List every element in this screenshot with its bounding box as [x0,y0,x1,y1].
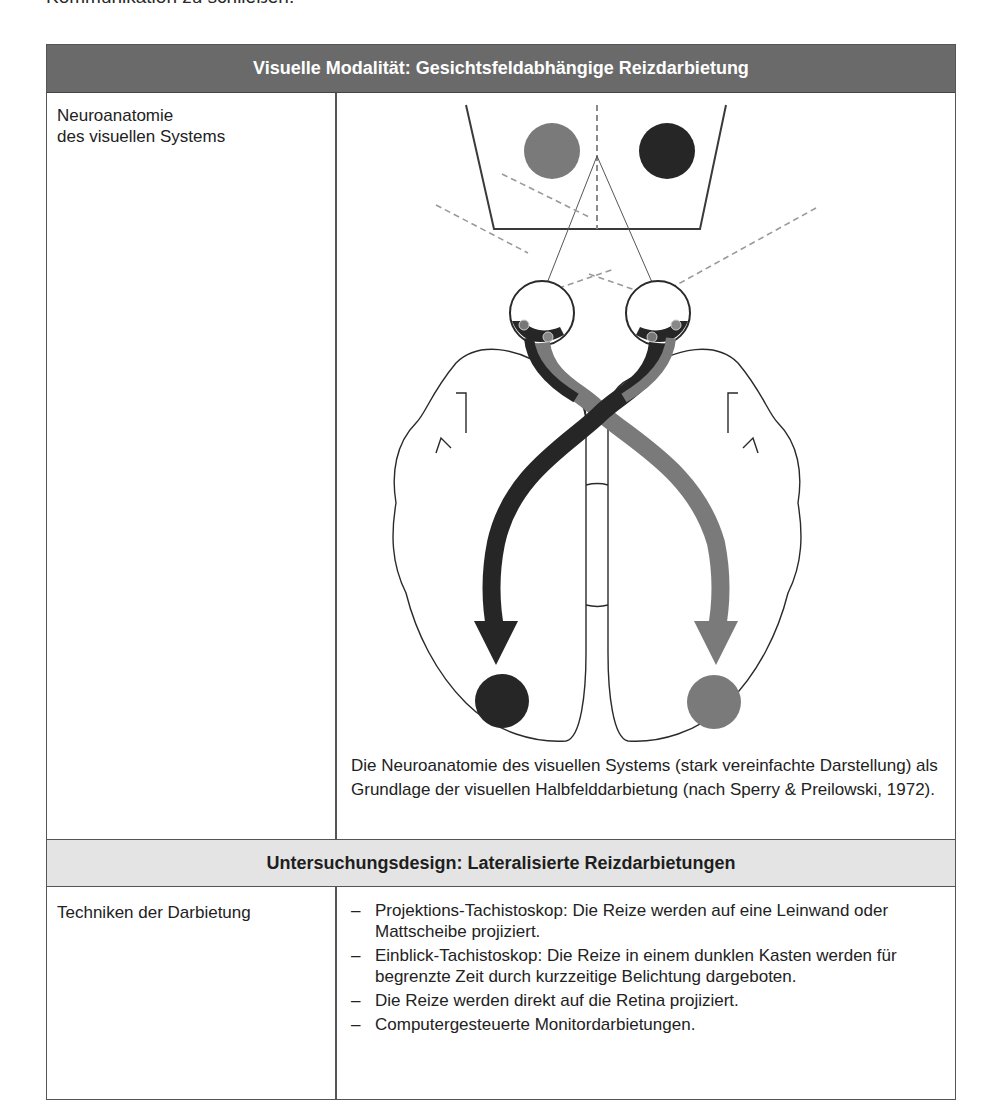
row-label-line2: des visuellen Systems [57,126,225,147]
row-label-techniques: Techniken der Darbietung [57,902,251,923]
visual-system-diagram [336,93,956,753]
dash-bullet: – [351,900,360,921]
eye-left-icon [510,281,574,345]
section-header-visual-modality: Visuelle Modalität: Gesichtsfeldabhängig… [47,45,955,93]
column-divider [335,887,337,1099]
techniques-list: –Projektions-Tachistoskop: Die Reize wer… [351,900,946,1038]
target-left-hemisphere [475,674,529,728]
row-label-neuroanatomy: Neuroanatomie des visuellen Systems [57,105,225,147]
dash-bullet: – [351,990,360,1011]
list-item: –Computergesteuerte Monitordarbietungen. [351,1014,946,1035]
list-item: –Einblick-Tachistoskop: Die Reize in ein… [351,945,946,987]
list-item: –Die Reize werden direkt auf die Retina … [351,990,946,1011]
screen-icon [466,105,726,229]
dash-bullet: – [351,1014,360,1035]
figure-caption: Die Neuroanatomie des visuellen Systems … [351,754,941,802]
eye-right-icon [626,281,690,345]
dash-bullet: – [351,945,360,966]
target-right-hemisphere [687,675,741,729]
section-header-study-design: Untersuchungsdesign: Lateralisierte Reiz… [47,839,955,887]
info-table: Visuelle Modalität: Gesichtsfeldabhängig… [46,44,956,1100]
intro-text: Kommunikation zu schließen. [46,0,294,8]
list-item: –Projektions-Tachistoskop: Die Reize wer… [351,900,946,942]
row-label-line1: Neuroanatomie [57,105,225,126]
